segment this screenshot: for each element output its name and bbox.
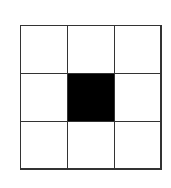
grid-cell xyxy=(20,121,68,170)
grid-cell-filled xyxy=(67,73,115,122)
grid-cell xyxy=(20,25,68,74)
grid-cell xyxy=(67,25,115,74)
grid-3x3 xyxy=(20,25,161,169)
grid-cell xyxy=(67,121,115,170)
grid-cell xyxy=(114,121,162,170)
grid-cell xyxy=(114,25,162,74)
grid-cell xyxy=(114,73,162,122)
grid-cell xyxy=(20,73,68,122)
